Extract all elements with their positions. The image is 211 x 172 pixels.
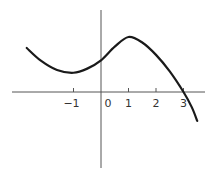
x-tick-label: 1 [125, 97, 132, 110]
x-axis-tick-labels: −10123 [63, 97, 187, 110]
x-tick-label: −1 [63, 97, 79, 110]
x-tick-label: 2 [153, 97, 160, 110]
function-graph: −10123 [0, 0, 211, 172]
x-tick-label: 3 [180, 97, 187, 110]
x-axis-ticks [74, 88, 184, 92]
x-tick-label: 0 [105, 97, 112, 110]
function-curve [27, 37, 198, 121]
